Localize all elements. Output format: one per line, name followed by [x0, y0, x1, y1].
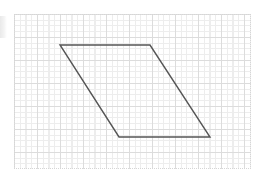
- figure-canvas: [0, 0, 258, 178]
- parallelogram-shape: [60, 45, 210, 137]
- shape-layer: [0, 0, 258, 178]
